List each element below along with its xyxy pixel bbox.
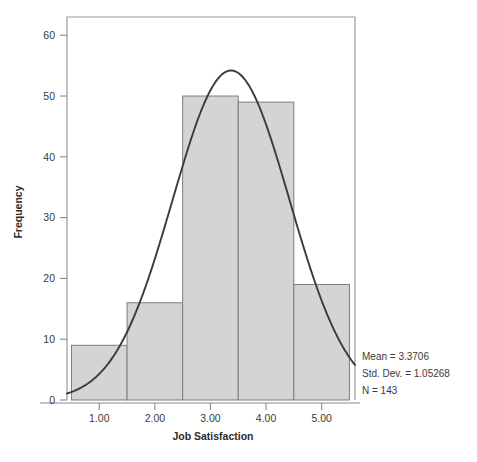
- histogram-chart: 0102030405060 1.002.003.004.005.00 Frequ…: [0, 0, 477, 462]
- x-axis-title: Job Satisfaction: [172, 430, 253, 442]
- y-axis-tick-label: 30: [43, 211, 55, 223]
- x-axis-tick-label: 3.00: [200, 412, 221, 424]
- y-axis: 0102030405060: [43, 29, 67, 406]
- x-axis-tick-label: 1.00: [89, 412, 110, 424]
- y-axis-tick-label: 50: [43, 90, 55, 102]
- histogram-bar: [238, 102, 294, 400]
- y-axis-tick-label: 0: [49, 394, 55, 406]
- annotation-std-dev: Std. Dev. = 1.05268: [362, 368, 450, 379]
- annotation-mean: Mean = 3.3706: [362, 351, 429, 362]
- annotation-n: N = 143: [362, 385, 398, 396]
- x-axis-tick-label: 5.00: [311, 412, 332, 424]
- y-axis-title: Frequency: [12, 185, 24, 238]
- histogram-bar: [127, 303, 183, 400]
- y-axis-tick-label: 20: [43, 272, 55, 284]
- x-axis: 1.002.003.004.005.00: [89, 403, 332, 424]
- x-axis-tick-label: 4.00: [256, 412, 277, 424]
- y-axis-tick-label: 40: [43, 151, 55, 163]
- y-axis-tick-label: 10: [43, 333, 55, 345]
- x-axis-tick-label: 2.00: [145, 412, 166, 424]
- y-axis-tick-label: 60: [43, 29, 55, 41]
- chart-canvas: 0102030405060 1.002.003.004.005.00 Frequ…: [0, 0, 477, 462]
